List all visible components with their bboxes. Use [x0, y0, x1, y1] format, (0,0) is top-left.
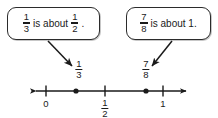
numerator: 7: [140, 12, 147, 22]
numerator: 1: [101, 98, 108, 108]
callout-b-text: is about 1.: [151, 19, 197, 29]
point-label-seven-eighths: 7 8: [142, 59, 149, 80]
denominator: 8: [142, 70, 149, 80]
denominator: 8: [140, 24, 147, 34]
point-seven-eighths: [143, 88, 148, 93]
callout-box-one-third: 1 3 is about 1 2 .: [7, 7, 100, 40]
point-one-third: [73, 88, 78, 93]
denominator: 2: [71, 24, 78, 34]
callout-a-pointer-arrow: [48, 41, 72, 66]
numerator: 1: [23, 12, 30, 22]
point-label-one-third: 1 3: [75, 59, 82, 80]
denominator: 3: [23, 24, 30, 34]
axis-label-zero: 0: [43, 99, 48, 109]
callout-box-seven-eighths: 7 8 is about 1.: [126, 7, 211, 40]
callout-a-period: .: [81, 19, 84, 29]
fraction-number-line-diagram: 1 3 is about 1 2 . 7 8 is about 1.: [0, 0, 218, 118]
denominator: 3: [75, 70, 82, 80]
axis-label-one: 1: [160, 99, 165, 109]
callout-a-text: is about: [33, 19, 68, 29]
denominator: 2: [101, 109, 108, 118]
numerator: 1: [75, 59, 82, 69]
callout-a-fraction-one-half: 1 2: [71, 12, 78, 33]
callout-a-fraction-one-third: 1 3: [23, 12, 30, 33]
axis-label-one-half: 1 2: [101, 98, 108, 118]
callout-b-pointer-arrow: [152, 41, 172, 66]
numerator: 7: [142, 59, 149, 69]
callout-b-fraction-seven-eighths: 7 8: [140, 12, 147, 33]
numerator: 1: [71, 12, 78, 22]
